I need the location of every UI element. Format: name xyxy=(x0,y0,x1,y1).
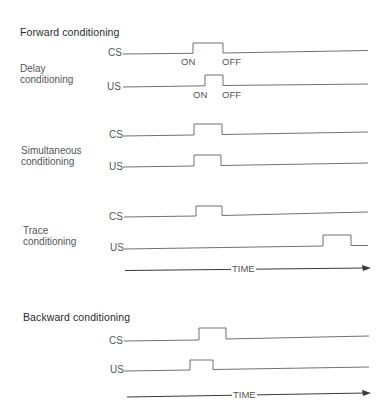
arrowhead-icon xyxy=(362,265,371,271)
time-axis-label-backward: TIME xyxy=(232,389,257,400)
delay-cs-label: CS xyxy=(108,47,122,58)
trace-conditioning-label: Trace conditioning xyxy=(23,225,76,247)
arrowhead-icon xyxy=(362,390,371,396)
delay-cs-on-label: ON xyxy=(181,56,195,67)
delay-cs-trace xyxy=(123,43,368,54)
time-axis-label-forward: TIME xyxy=(231,263,256,274)
delay-us-on-label: ON xyxy=(193,89,207,100)
label-line: conditioning xyxy=(20,74,73,85)
simultaneous-cs-label: CS xyxy=(109,129,123,140)
backward-us-trace xyxy=(124,360,369,371)
simultaneous-us-trace xyxy=(123,155,368,167)
backward-cs-trace xyxy=(124,328,369,341)
simultaneous-cs-trace xyxy=(123,124,368,136)
label-line: Delay xyxy=(20,63,73,74)
trace-us-trace xyxy=(124,235,368,249)
trace-us-label: US xyxy=(110,242,124,253)
backward-conditioning-heading: Backward conditioning xyxy=(23,311,130,323)
trace-cs-label: CS xyxy=(109,211,123,222)
label-line: Trace xyxy=(23,225,76,236)
delay-us-off-label: OFF xyxy=(222,89,241,100)
delay-us-label: US xyxy=(107,81,121,92)
simultaneous-conditioning-label: Simultaneous conditioning xyxy=(21,145,82,167)
delay-conditioning-label: Delay conditioning xyxy=(20,63,73,85)
forward-conditioning-heading: Forward conditioning xyxy=(20,26,119,38)
delay-us-trace xyxy=(123,75,368,87)
label-line: Simultaneous xyxy=(21,145,82,156)
label-line: conditioning xyxy=(21,156,82,167)
trace-cs-trace xyxy=(124,206,368,217)
label-line: conditioning xyxy=(23,236,76,247)
simultaneous-us-label: US xyxy=(109,161,123,172)
backward-cs-label: CS xyxy=(109,335,123,346)
backward-us-label: US xyxy=(110,364,124,375)
delay-cs-off-label: OFF xyxy=(222,56,241,67)
